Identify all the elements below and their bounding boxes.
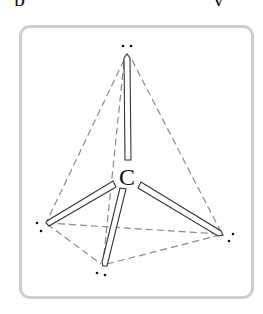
lone-pair-right-dot-1 [232,233,235,236]
lone-pair-bottom-dot-1 [96,272,99,275]
lone-pair-left-dot-1 [36,222,39,225]
lone-pair-dots [36,45,235,277]
bond-left [46,181,116,226]
tetrahedron-diagram: Tetrahedral arrangement of electron pair… [0,0,263,314]
lone-pair-right-dot-2 [228,240,231,243]
bond-right [138,182,223,236]
lone-pair-top-dot-1 [122,45,125,48]
tetrahedron-edges [46,60,222,264]
edge-left-right [47,223,220,234]
lone-pair-left-dot-2 [40,230,43,233]
bonds [46,54,223,266]
edge-left-bottom [47,224,101,264]
lone-pair-bottom-dot-2 [104,274,107,277]
edge-bottom-right [107,235,220,264]
lone-pair-top-dot-2 [130,45,133,48]
central-atom-label: C [119,164,135,190]
bond-top [124,54,131,160]
